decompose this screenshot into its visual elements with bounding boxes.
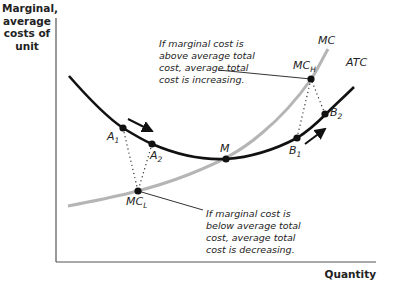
annotation-mc-above-atc: If marginal cost is above average total …	[159, 38, 309, 86]
point-a1	[119, 124, 126, 131]
point-label-b2: B2	[330, 106, 342, 121]
atc-curve-label: ATC	[346, 56, 367, 69]
leader-line-bottom-note	[138, 191, 203, 210]
point-label-a2: A2	[150, 149, 162, 164]
point-b2	[321, 110, 328, 117]
point-a2	[148, 140, 155, 147]
dotted-connector-a1-mcl	[123, 128, 138, 191]
point-label-b1: B1	[289, 144, 301, 159]
point-mcl	[134, 187, 141, 194]
mc-curve-label: MC	[318, 34, 335, 47]
point-label-a1: A1	[107, 130, 119, 145]
point-label-m: M	[220, 142, 230, 155]
arrow-a1-to-a2-icon	[128, 119, 152, 131]
x-axis-label: Quantity	[325, 268, 376, 280]
point-b1	[293, 134, 300, 141]
point-m	[222, 155, 229, 162]
dotted-connector-b2-mch	[311, 79, 325, 114]
atc-curve	[69, 76, 354, 159]
point-label-mcl: MCL	[126, 195, 147, 210]
annotation-mc-below-atc: If marginal cost is below average total …	[206, 208, 356, 256]
